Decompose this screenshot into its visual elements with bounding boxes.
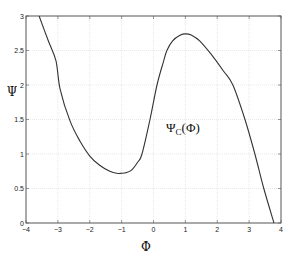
y-tick-label: 1 [20,151,24,158]
x-tick-label: −2 [86,226,94,233]
x-tick-label: 3 [247,226,251,233]
y-tick-label: 0.5 [14,185,24,192]
curve-annotation: ΨC(Φ) [166,120,200,137]
y-axis-label: Ψ [7,85,18,99]
y-tick-label: 1.5 [14,116,24,123]
axis-ticks: −4−3−2−10123400.511.522.53 [14,13,283,234]
y-tick-label: 3 [20,13,24,20]
x-tick-label: −4 [22,226,30,233]
x-tick-label: 2 [215,226,219,233]
x-axis-label: Φ [141,240,151,254]
y-tick-label: 2 [20,82,24,89]
x-tick-label: 0 [152,226,156,233]
x-tick-label: 4 [279,226,283,233]
grid-lines [26,16,281,223]
annotation-suffix: (Φ) [182,120,200,135]
x-tick-label: −1 [118,226,126,233]
annotation-main: Ψ [166,120,176,135]
y-tick-label: 0 [20,220,24,227]
chart: −4−3−2−10123400.511.522.53 Φ Ψ ΨC(Φ) [0,0,294,257]
x-tick-label: 1 [183,226,187,233]
x-tick-label: −3 [54,226,62,233]
y-tick-label: 2.5 [14,47,24,54]
